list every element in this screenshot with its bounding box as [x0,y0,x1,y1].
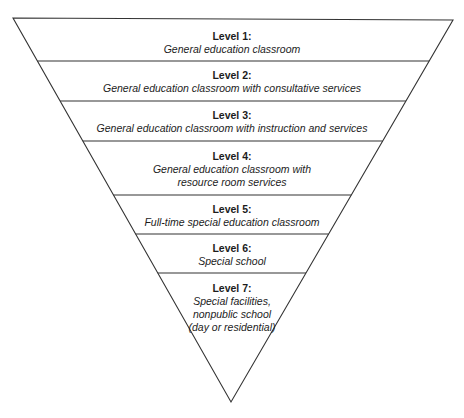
level-2-band: Level 2: General education classroom wit… [0,69,464,95]
level-1-description: General education classroom [0,43,464,56]
level-6-band: Level 6: Special school [0,242,464,268]
level-4-description: General education classroom with resourc… [147,163,317,189]
level-1-band: Level 1: General education classroom [0,30,464,56]
level-7-title: Level 7: [0,282,464,295]
level-3-band: Level 3: General education classroom wit… [0,109,464,135]
level-4-title: Level 4: [0,150,464,163]
level-6-description: Special school [0,255,464,268]
level-5-band: Level 5: Full-time special education cla… [0,203,464,229]
level-3-description: General education classroom with instruc… [0,122,464,135]
level-5-title: Level 5: [0,203,464,216]
level-7-band: Level 7: Special facilities, nonpublic s… [0,282,464,334]
level-3-title: Level 3: [0,109,464,122]
level-2-description: General education classroom with consult… [0,82,464,95]
level-7-description: Special facilities, nonpublic school (da… [186,295,278,334]
level-5-description: Full-time special education classroom [0,216,464,229]
level-4-band: Level 4: General education classroom wit… [0,150,464,189]
level-2-title: Level 2: [0,69,464,82]
level-6-title: Level 6: [0,242,464,255]
level-1-title: Level 1: [0,30,464,43]
